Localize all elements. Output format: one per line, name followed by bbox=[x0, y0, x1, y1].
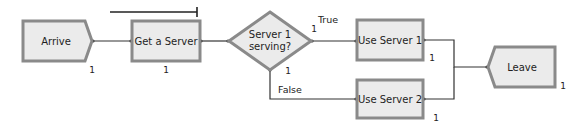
node-arrive[interactable]: Arrive bbox=[23, 21, 92, 61]
node-use-server-2-count: 1 bbox=[433, 113, 439, 123]
node-leave-label: Leave bbox=[507, 62, 537, 73]
flowchart-canvas: Arrive 1 Get a Server 1 Server 1 serving… bbox=[0, 0, 584, 128]
node-use-server-2-label: Use Server 2 bbox=[358, 94, 422, 105]
node-leave-count: 1 bbox=[560, 81, 566, 91]
node-arrive-count: 1 bbox=[89, 65, 95, 75]
resource-bar bbox=[110, 7, 197, 17]
node-decide-label-line2: serving? bbox=[249, 41, 291, 52]
node-decide[interactable]: Server 1 serving? bbox=[229, 12, 311, 70]
node-get-server[interactable]: Get a Server bbox=[132, 21, 200, 61]
branch-label-false: False bbox=[278, 84, 302, 95]
node-use-server-1[interactable]: Use Server 1 bbox=[357, 20, 423, 60]
node-get-server-count: 1 bbox=[163, 65, 169, 75]
node-decide-false-count: 1 bbox=[285, 66, 291, 76]
node-decide-label-line1: Server 1 bbox=[249, 29, 291, 40]
branch-label-true: True bbox=[317, 14, 338, 25]
node-use-server-1-label: Use Server 1 bbox=[358, 35, 422, 46]
connector-server2-leave bbox=[424, 67, 454, 99]
node-arrive-label: Arrive bbox=[41, 36, 71, 47]
node-use-server-2[interactable]: Use Server 2 bbox=[357, 80, 423, 118]
node-leave[interactable]: Leave bbox=[488, 47, 555, 87]
node-get-server-label: Get a Server bbox=[134, 36, 198, 47]
node-decide-true-count: 1 bbox=[311, 24, 317, 34]
node-use-server-1-count: 1 bbox=[429, 53, 435, 63]
